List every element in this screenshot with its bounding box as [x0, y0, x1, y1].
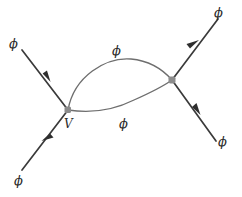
right-vertex-dot [169, 77, 176, 84]
leg-line-lower-left [22, 110, 68, 170]
leg-line-lower-right [172, 80, 216, 141]
leg-line-upper-left [22, 50, 68, 110]
label-leg-lower-left: ϕ [14, 174, 23, 187]
loop-propagator-upper [68, 59, 172, 110]
label-left-vertex: V [64, 118, 73, 130]
label-leg-upper-left: ϕ [9, 37, 18, 50]
feynman-diagram-canvas: ϕ ϕ ϕ ϕ ϕ ϕ V [0, 0, 242, 197]
leg-line-upper-right [172, 19, 218, 80]
loop-propagator-lower [68, 80, 172, 111]
label-loop-upper: ϕ [112, 44, 121, 57]
label-leg-upper-right: ϕ [214, 6, 223, 19]
label-loop-lower: ϕ [119, 117, 128, 130]
arrowhead-lower-left-icon [42, 134, 54, 142]
left-vertex-dot [65, 107, 72, 114]
label-leg-lower-right: ϕ [218, 135, 227, 148]
feynman-diagram-graphic [0, 0, 242, 197]
arrowhead-upper-left-icon [43, 71, 51, 83]
